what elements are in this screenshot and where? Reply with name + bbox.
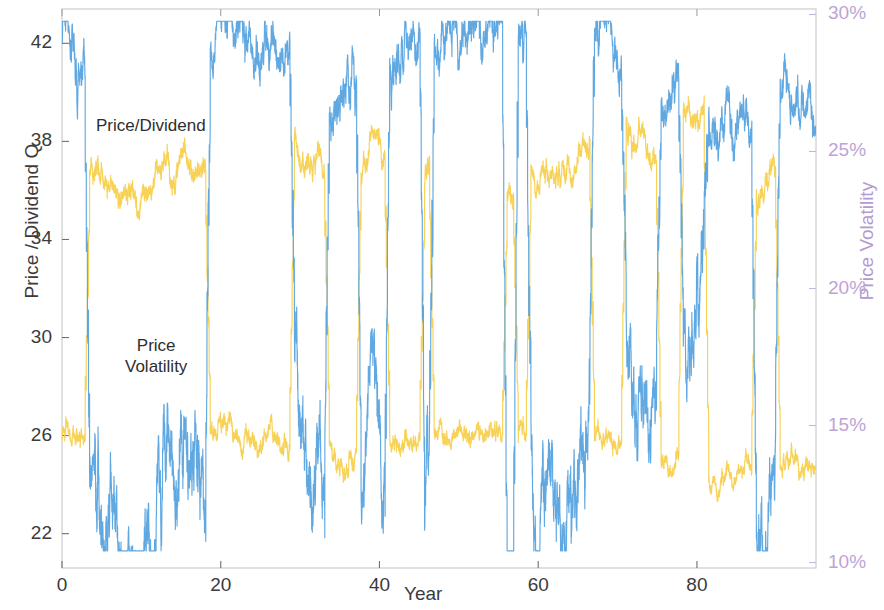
chart-figure: Price / Dividend Q Price Volatility Year… bbox=[0, 0, 884, 610]
y-tick-label-left: 42 bbox=[6, 31, 52, 53]
series-group bbox=[62, 21, 816, 551]
y-tick-label-right: 20% bbox=[828, 277, 884, 299]
series-line-price-volatility bbox=[62, 96, 816, 502]
series-line-price-dividend bbox=[62, 21, 816, 551]
x-tick-label: 60 bbox=[508, 574, 568, 596]
y-tick-label-left: 34 bbox=[6, 227, 52, 249]
x-tick-label: 40 bbox=[349, 574, 409, 596]
y-tick-label-right: 15% bbox=[828, 414, 884, 436]
y-tick-label-right: 25% bbox=[828, 139, 884, 161]
x-tick-label: 0 bbox=[32, 574, 92, 596]
x-tick-label: 80 bbox=[667, 574, 727, 596]
y-tick-label-left: 26 bbox=[6, 424, 52, 446]
y-tick-label-left: 30 bbox=[6, 326, 52, 348]
y-tick-label-right: 30% bbox=[828, 2, 884, 24]
y-tick-label-left: 38 bbox=[6, 129, 52, 151]
annotation-price-volatility: Price Volatility bbox=[125, 335, 187, 378]
y-tick-label-left: 22 bbox=[6, 522, 52, 544]
plot-box bbox=[62, 9, 816, 568]
plot-area bbox=[0, 0, 884, 610]
x-tick-label: 20 bbox=[191, 574, 251, 596]
y-tick-label-right: 10% bbox=[828, 551, 884, 573]
annotation-price-dividend: Price/Dividend bbox=[96, 115, 206, 136]
